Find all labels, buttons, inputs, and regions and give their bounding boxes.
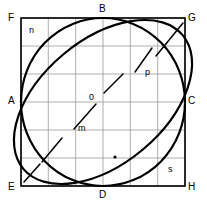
vertex-label-H: H [188, 182, 195, 192]
vertex-label-E: E [8, 182, 15, 192]
vertex-label-C: C [188, 96, 195, 106]
geometry-diagram: FBGACEDH n0pms [0, 0, 207, 204]
tick-segment-tick-center-o [104, 74, 123, 93]
vertex-label-F: F [8, 13, 14, 23]
vertex-label-B: B [99, 4, 106, 14]
vertex-label-G: G [188, 13, 196, 23]
point-label-p: p [145, 68, 150, 77]
point-label-o: 0 [89, 93, 94, 102]
point-label-n: n [29, 26, 34, 35]
point-label-m: m [78, 124, 86, 133]
dot-markers [113, 155, 116, 158]
point-label-s: s [168, 165, 173, 174]
vertex-label-D: D [99, 190, 106, 200]
dot-marker-dot-lower-center [113, 155, 116, 158]
vertex-label-A: A [8, 96, 15, 106]
